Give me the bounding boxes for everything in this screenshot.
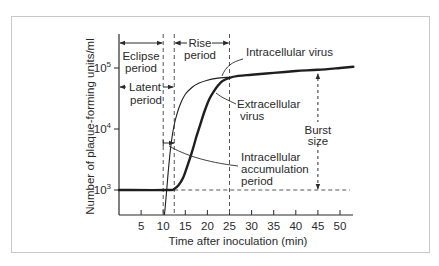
- extracellular-virus-label: Extracellular: [237, 98, 300, 110]
- burst-label-line2: size: [308, 135, 328, 147]
- y-tick-label: 103: [94, 182, 112, 196]
- x-tick-label: 35: [267, 220, 280, 232]
- y-tick-label: 104: [94, 121, 112, 135]
- y-tick-label: 105: [94, 60, 112, 74]
- x-axis-label: Time after inoculation (min): [169, 235, 308, 247]
- intracellular-virus-leader: [222, 59, 243, 76]
- x-tick-label: 45: [312, 220, 325, 232]
- rise-label: Rise: [188, 37, 211, 49]
- extracellular-virus-leader: [216, 93, 236, 104]
- accumulation-leader: [169, 146, 238, 166]
- x-tick-label: 40: [289, 220, 302, 232]
- rise-label-line2: period: [184, 49, 216, 61]
- latent-label: Latent: [129, 81, 162, 93]
- x-tick-label: 10: [157, 220, 170, 232]
- x-tick-label: 5: [138, 220, 144, 232]
- annotations: EclipseperiodLatentperiodRiseperiodIntra…: [120, 37, 335, 189]
- accumulation-label: Intracellular: [241, 151, 301, 163]
- latent-label-line2: period: [130, 94, 162, 106]
- y-ticks: 103104105: [94, 60, 119, 196]
- x-tick-label: 25: [223, 220, 236, 232]
- accumulation-label-line3: period: [241, 175, 273, 187]
- extracellular-virus-label-line2: virus: [240, 110, 265, 122]
- x-tick-label: 50: [334, 220, 347, 232]
- y-axis-label: Number of plaque-forming units/ml: [84, 38, 96, 214]
- x-tick-label: 20: [201, 220, 214, 232]
- x-tick-label: 30: [245, 220, 258, 232]
- x-tick-label: 15: [179, 220, 192, 232]
- x-ticks: 5101520253035404550: [138, 210, 347, 232]
- eclipse-label: Eclipse: [122, 50, 159, 62]
- intracellular-virus-label: Intracellular virus: [246, 46, 333, 58]
- chart: 5101520253035404550 103104105 Time after…: [0, 0, 439, 266]
- eclipse-label-line2: period: [125, 62, 157, 74]
- accumulation-label-line2: accumulation: [241, 163, 309, 175]
